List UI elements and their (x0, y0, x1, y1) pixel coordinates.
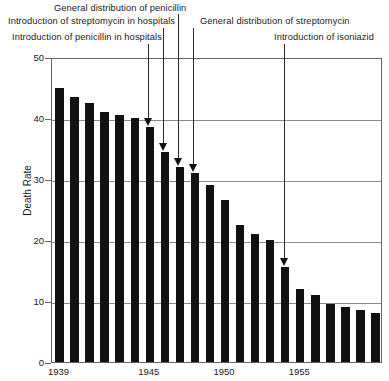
arrow-head (280, 258, 288, 266)
bar (161, 152, 169, 362)
annotation-arrow-icon (174, 14, 183, 166)
bar (221, 200, 229, 362)
bar (191, 173, 199, 362)
plot-area (51, 58, 382, 363)
arrow-head (159, 143, 167, 151)
arrow-shaft (163, 28, 164, 144)
bar (281, 267, 289, 362)
bar (266, 240, 274, 362)
y-tick-label: 10 (0, 296, 44, 307)
x-tick-label: 1955 (289, 366, 310, 377)
bar (311, 295, 319, 362)
annotation-arrow-icon (189, 28, 198, 172)
bar (115, 115, 123, 362)
bar (55, 88, 63, 363)
annotation-arrow-icon (280, 44, 289, 266)
bar (356, 310, 364, 362)
x-tick-label: 1939 (48, 366, 69, 377)
y-axis-title: Death Rate (22, 146, 33, 236)
x-axis: 1939194519501955 (0, 364, 389, 381)
chart-root: General distribution of penicillin Intro… (0, 0, 389, 381)
bar (341, 307, 349, 362)
y-tick-label: 50 (0, 52, 44, 63)
bar-series (52, 59, 381, 362)
x-tick-label: 1950 (213, 366, 234, 377)
bar (85, 103, 93, 362)
arrow-head (144, 118, 152, 126)
arrow-shaft (193, 28, 194, 165)
arrow-shaft (148, 44, 149, 119)
arrow-head (174, 158, 182, 166)
bar (70, 97, 78, 362)
annotation-label-penicillin-general: General distribution of penicillin (54, 3, 186, 14)
bar (251, 234, 259, 362)
y-tick-label: 40 (0, 113, 44, 124)
bar (100, 112, 108, 362)
bar (146, 127, 154, 362)
bar (176, 167, 184, 362)
bar (206, 185, 214, 362)
annotation-arrow-icon (159, 28, 168, 151)
x-tick-label: 1945 (138, 366, 159, 377)
bar (371, 313, 379, 362)
y-axis: 01020304050 Death Rate (0, 0, 51, 381)
arrow-shaft (178, 14, 179, 159)
annotation-label-isoniazid: Introduction of isoniazid (274, 32, 374, 43)
bar (326, 304, 334, 362)
y-tick-label: 20 (0, 235, 44, 246)
arrow-head (189, 164, 197, 172)
annotation-label-streptomycin-general: General distribution of streptomycin (200, 16, 350, 27)
bar (236, 225, 244, 362)
bar (296, 289, 304, 362)
bar (131, 118, 139, 362)
annotation-arrow-icon (144, 44, 153, 126)
arrow-shaft (284, 44, 285, 259)
